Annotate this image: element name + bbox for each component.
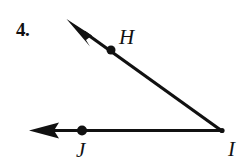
point-J-label: J — [76, 140, 85, 161]
point-H-dot — [107, 46, 116, 55]
vertex-I-junction — [219, 128, 224, 133]
ray-IH-line — [84, 32, 222, 131]
point-J-dot — [77, 126, 87, 136]
vertex-I-label: I — [228, 139, 235, 160]
ray-IH-arrowhead — [67, 19, 93, 47]
point-H-label: H — [119, 27, 134, 48]
worksheet-figure-page: 4. H J I — [0, 0, 249, 164]
